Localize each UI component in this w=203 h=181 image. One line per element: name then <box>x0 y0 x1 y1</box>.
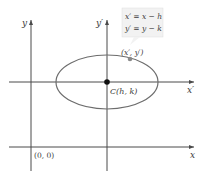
origin-label: (0, 0) <box>34 151 54 160</box>
center-point <box>104 79 110 85</box>
ellipse-point <box>128 57 133 62</box>
equation-line-1: x′ = x − h <box>125 12 162 21</box>
translated-y-label: y′ <box>95 18 103 28</box>
center-label: C(h, k) <box>110 87 137 96</box>
original-x-label: x <box>190 150 195 160</box>
original-y-label: y <box>21 18 28 28</box>
point-label: (x′, y′) <box>121 48 144 57</box>
equation-line-2: y′ = y − k <box>124 24 162 33</box>
diagram-canvas: y y′ x′ x (0, 0) C(h, k) (x′, y′) x′ = x… <box>0 0 203 181</box>
equation-box-pointer <box>130 37 140 45</box>
translated-x-label: x′ <box>187 85 194 95</box>
